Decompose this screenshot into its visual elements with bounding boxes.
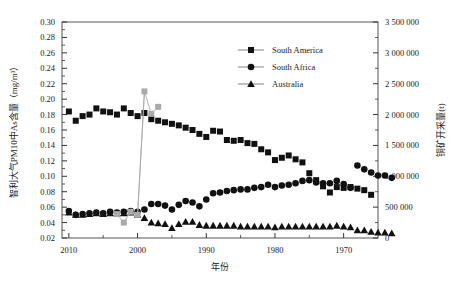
- data-point: [244, 223, 252, 230]
- data-point: [141, 206, 148, 213]
- data-point: [251, 223, 259, 230]
- x-axis-tick-label: 1990: [198, 245, 215, 255]
- data-point: [313, 179, 320, 186]
- connector-line: [138, 91, 145, 214]
- data-point: [148, 201, 155, 208]
- data-point: [196, 221, 204, 228]
- y-axis-tick-label: 0.16: [40, 125, 55, 135]
- data-point: [327, 189, 333, 195]
- data-point: [293, 156, 299, 162]
- data-point: [175, 220, 183, 227]
- data-point: [285, 181, 292, 188]
- data-point: [154, 220, 162, 227]
- data-point: [361, 187, 367, 193]
- data-point: [189, 199, 196, 206]
- data-point: [347, 223, 355, 230]
- data-point: [248, 47, 254, 53]
- x-axis-title: 年份: [211, 261, 229, 272]
- data-point: [209, 222, 217, 229]
- data-point: [306, 223, 314, 230]
- data-point: [299, 223, 307, 230]
- data-point: [327, 180, 334, 187]
- data-point: [203, 134, 209, 140]
- y-axis-tick-label: 0.24: [40, 63, 56, 73]
- data-point: [155, 104, 161, 110]
- data-point: [271, 223, 279, 230]
- data-point: [340, 223, 348, 230]
- data-point: [148, 219, 156, 226]
- data-point: [196, 131, 202, 137]
- data-point: [169, 206, 176, 213]
- data-point: [223, 222, 231, 229]
- data-point: [203, 196, 210, 203]
- data-point: [285, 223, 293, 230]
- data-point: [217, 129, 223, 135]
- data-point: [128, 110, 134, 116]
- data-point: [196, 203, 203, 210]
- y2-axis-title: 铜矿开采量(t): [435, 103, 446, 157]
- data-point: [354, 186, 360, 192]
- data-point: [264, 223, 272, 230]
- data-point: [114, 112, 120, 118]
- data-point: [237, 223, 245, 230]
- y-axis-tick-label: 0.20: [40, 94, 55, 104]
- data-point: [121, 220, 127, 226]
- data-point: [161, 220, 169, 227]
- data-point: [216, 222, 224, 229]
- y-axis-tick-label: 0.22: [40, 79, 55, 89]
- legend-item-south-america[interactable]: South America: [238, 45, 323, 55]
- y-axis-tick-label: 0.04: [40, 218, 56, 228]
- arsenic-copper-chart: 0.300.280.260.240.220.200.180.160.140.12…: [0, 0, 453, 286]
- data-point: [224, 188, 231, 195]
- data-point: [382, 172, 389, 179]
- legend-item-australia[interactable]: Australia: [238, 79, 303, 89]
- y2-axis-tick-label: 2 500 000: [385, 79, 419, 89]
- data-point: [230, 187, 237, 194]
- data-point: [141, 214, 149, 221]
- x-axis-tick-label: 1970: [335, 245, 352, 255]
- data-point: [210, 190, 217, 197]
- data-point: [244, 140, 250, 146]
- y-axis-tick-label: 0.10: [40, 171, 55, 181]
- data-point: [114, 211, 120, 217]
- data-point: [368, 169, 375, 176]
- x-axis-tick-label: 1980: [266, 245, 283, 255]
- data-point: [238, 137, 244, 143]
- y2-axis-tick-label: 500 000: [385, 202, 413, 212]
- data-point: [237, 186, 244, 193]
- data-point: [292, 223, 300, 230]
- data-point: [306, 170, 312, 176]
- y-axis-tick-label: 0.28: [40, 32, 55, 42]
- data-point: [286, 152, 292, 158]
- data-point: [168, 224, 176, 231]
- data-point: [128, 209, 134, 215]
- y-axis-title: 智利大气PM10中As含量（mg/m³）: [8, 62, 19, 199]
- y-axis-tick-label: 0.26: [40, 48, 55, 58]
- data-point: [258, 184, 265, 191]
- data-point: [155, 201, 162, 208]
- data-point: [224, 137, 230, 143]
- data-point: [367, 228, 375, 235]
- data-point: [189, 218, 197, 225]
- data-point: [230, 222, 238, 229]
- data-point: [148, 111, 154, 117]
- data-point: [93, 105, 99, 111]
- y-axis-tick-label: 0.02: [40, 233, 55, 243]
- y2-axis-tick-label: 1 500 000: [385, 140, 419, 150]
- data-point: [292, 180, 299, 187]
- legend-item-south-africa[interactable]: South Africa: [238, 62, 315, 72]
- data-point: [257, 223, 265, 230]
- data-point: [319, 223, 327, 230]
- data-point: [278, 223, 286, 230]
- data-point: [333, 222, 341, 229]
- data-point: [258, 146, 264, 152]
- legend-label: South Africa: [272, 62, 315, 72]
- data-point: [279, 155, 285, 161]
- data-point: [299, 159, 305, 165]
- y-axis-tick-label: 0.18: [40, 110, 55, 120]
- legend-label: Australia: [272, 79, 303, 89]
- data-point: [86, 112, 92, 118]
- data-point: [210, 128, 216, 134]
- data-point: [360, 226, 368, 233]
- data-point: [190, 127, 196, 133]
